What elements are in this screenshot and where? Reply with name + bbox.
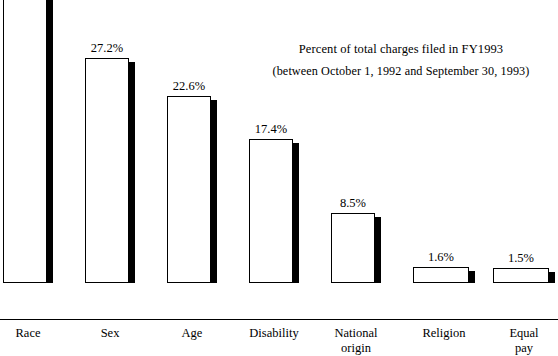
bar-chart: Percent of total charges filed in FY1993…	[0, 0, 558, 356]
axis-baseline	[0, 319, 558, 320]
bar-value-label: 1.5%	[493, 250, 549, 266]
category-label-religion: Religion	[413, 326, 475, 341]
bar-value-label: 27.2%	[85, 40, 129, 56]
bar-shadow	[293, 143, 299, 283]
bar	[413, 267, 469, 283]
bar	[249, 139, 293, 283]
bar	[331, 213, 375, 283]
bar-value-label: 22.6%	[167, 78, 211, 94]
category-label-sex: Sex	[85, 326, 135, 341]
bar	[3, 0, 47, 283]
category-label-equal-pay: Equal pay	[493, 326, 555, 356]
bar-group: 1.5%	[493, 268, 555, 283]
category-label-national-origin: National origin	[331, 326, 381, 356]
bar-group: 27.2%	[85, 58, 135, 283]
plot-area: 36.1%27.2%22.6%17.4%8.5%1.6%1.5%	[0, 0, 558, 320]
bar-value-label: 1.6%	[413, 249, 469, 265]
bar-group: 36.1%	[3, 0, 53, 283]
bar	[85, 58, 129, 283]
bar-group: 8.5%	[331, 213, 381, 283]
category-label-race: Race	[3, 326, 53, 341]
bar-shadow	[211, 100, 217, 283]
bar	[493, 268, 549, 283]
bar	[167, 96, 211, 283]
bar-shadow	[129, 62, 135, 283]
bar-value-label: 8.5%	[331, 195, 375, 211]
bar-group: 1.6%	[413, 267, 475, 283]
category-label-age: Age	[167, 326, 217, 341]
bar-shadow	[469, 271, 475, 283]
bar-shadow	[549, 272, 555, 283]
category-label-disability: Disability	[249, 326, 299, 341]
bar-value-label: 17.4%	[249, 121, 293, 137]
bar-group: 22.6%	[167, 96, 217, 283]
bar-group: 17.4%	[249, 139, 299, 283]
bar-shadow	[375, 217, 381, 283]
bar-shadow	[47, 0, 53, 283]
